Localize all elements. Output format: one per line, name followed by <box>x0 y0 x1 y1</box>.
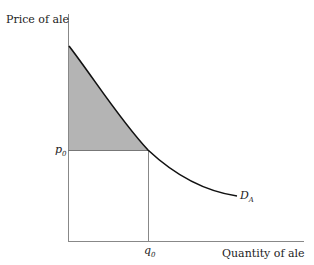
x-axis-label: Quantity of ale <box>222 247 305 260</box>
demand-curve-label: DA <box>240 189 254 204</box>
demand-diagram <box>0 0 314 265</box>
quantity-marker: q0 <box>144 244 156 259</box>
y-axis-label: Price of ale <box>6 13 69 26</box>
price-marker: p0 <box>55 143 67 158</box>
